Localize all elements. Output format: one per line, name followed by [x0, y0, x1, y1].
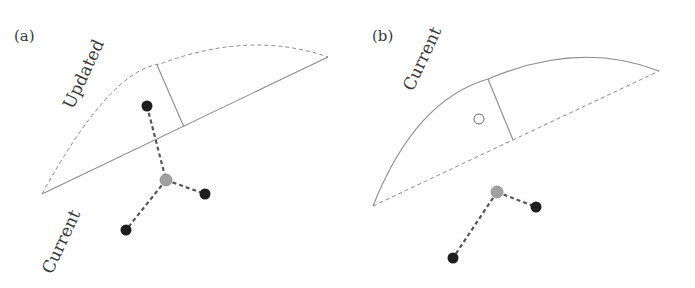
dark-atom-top — [142, 101, 153, 112]
bond-bottom-b — [453, 192, 497, 258]
gray-center-atom-b — [491, 186, 503, 198]
gray-center-atom — [160, 174, 172, 186]
diagram-canvas: (a) Updated Current (b) — [0, 0, 695, 288]
dark-atom-bottom — [121, 225, 132, 236]
open-atom — [474, 114, 484, 124]
bond-bottom — [126, 180, 166, 230]
panel-a-label: (a) — [14, 27, 35, 45]
updated-label: Updated — [58, 36, 107, 112]
current-label-b: Current — [398, 23, 445, 93]
panel-b: (b) Current — [372, 23, 659, 263]
dark-atom-right — [200, 189, 211, 200]
dark-atom-right-b — [531, 202, 542, 213]
bond-top — [147, 106, 166, 180]
panel-a: (a) Updated Current — [14, 27, 328, 277]
current-label-a: Current — [37, 206, 84, 276]
perpendicular-line-b — [488, 79, 513, 140]
dark-atom-bottom-b — [448, 253, 459, 264]
perpendicular-line — [157, 65, 184, 127]
panel-b-label: (b) — [372, 27, 393, 45]
